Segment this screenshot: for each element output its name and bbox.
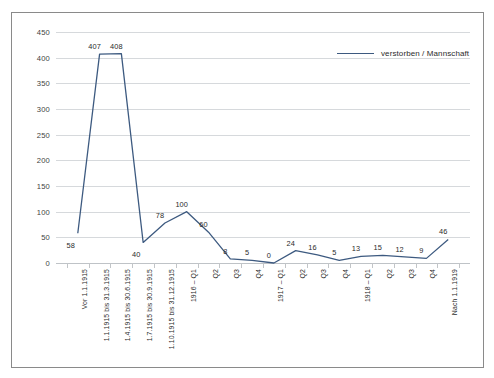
x-axis-tick — [459, 263, 460, 268]
y-tick-label: 200 — [37, 156, 50, 165]
x-axis-tick — [350, 263, 351, 268]
x-axis-tick — [372, 263, 373, 268]
y-tick-label: 300 — [37, 105, 50, 114]
y-tick-label: 0 — [46, 259, 50, 268]
y-tick-label: 100 — [37, 207, 50, 216]
x-axis-tick — [154, 263, 155, 268]
x-axis-category-label: Q3 — [408, 269, 415, 278]
x-axis-category-label: Q2 — [212, 269, 219, 278]
plot-area: 050100150200250300350400450 584074084078… — [56, 32, 470, 263]
x-axis-tick — [198, 263, 199, 268]
x-axis-category-label: Q2 — [299, 269, 306, 278]
y-tick-label: 450 — [37, 28, 50, 37]
y-tick-label: 250 — [37, 130, 50, 139]
x-axis-category-label: Q4 — [342, 269, 349, 278]
point-label: 8 — [223, 247, 227, 256]
point-label: 40 — [132, 250, 140, 259]
point-label: 407 — [88, 42, 101, 51]
legend-line-swatch — [337, 53, 374, 54]
legend-label: verstorben / Mannschaft — [381, 49, 469, 58]
point-label: 46 — [439, 227, 447, 236]
point-label: 12 — [395, 245, 403, 254]
point-label: 5 — [332, 248, 336, 257]
point-label: 100 — [175, 200, 188, 209]
x-axis-category-label: 1.4.1915 bis 30.6.1915 — [124, 269, 131, 341]
x-axis-category-label: 1.1.1915 bis 31.3.1915 — [103, 269, 110, 341]
point-label: 16 — [308, 243, 316, 252]
x-axis-category-label: Vor 1.1.1915 — [81, 269, 88, 309]
x-axis-category-label: Nach 1.1.1919 — [451, 269, 458, 315]
point-label: 5 — [245, 248, 249, 257]
point-label: 58 — [67, 241, 75, 250]
y-tick-label: 150 — [37, 182, 50, 191]
x-axis-tick — [416, 263, 417, 268]
y-tick-label: 50 — [41, 233, 50, 242]
point-label: 13 — [352, 244, 360, 253]
x-axis-tick — [285, 263, 286, 268]
x-axis-tick — [241, 263, 242, 268]
x-axis-category-label: Q4 — [429, 269, 436, 278]
line-series — [56, 32, 470, 263]
point-label: 0 — [267, 251, 271, 260]
chart-frame: 050100150200250300350400450 584074084078… — [11, 12, 484, 368]
x-axis-tick — [328, 263, 329, 268]
x-axis-tick — [132, 263, 133, 268]
x-axis-ticks — [56, 263, 470, 268]
x-axis-category-label: Q3 — [320, 269, 327, 278]
point-label: 15 — [374, 243, 382, 252]
y-tick-label: 400 — [37, 53, 50, 62]
point-label: 9 — [419, 246, 423, 255]
x-axis-tick — [219, 263, 220, 268]
point-label: 60 — [199, 220, 207, 229]
x-axis-tick — [110, 263, 111, 268]
x-axis-category-label: 1917 – Q1 — [277, 269, 284, 302]
point-label: 408 — [110, 42, 123, 51]
chart-legend: verstorben / Mannschaft — [337, 49, 469, 58]
x-axis-tick — [437, 263, 438, 268]
x-axis-tick — [394, 263, 395, 268]
x-axis-category-label: 1916 – Q1 — [190, 269, 197, 302]
x-axis-tick — [263, 263, 264, 268]
x-axis-category-label: Q3 — [233, 269, 240, 278]
x-axis-category-label: Q2 — [386, 269, 393, 278]
x-axis-category-label: Q4 — [255, 269, 262, 278]
x-axis-labels: Vor 1.1.19151.1.1915 bis 31.3.19151.4.19… — [56, 269, 470, 369]
x-axis-tick — [307, 263, 308, 268]
x-axis-category-label: 1.10.1915 bis 31.12.1915 — [168, 269, 175, 349]
point-label: 78 — [156, 211, 164, 220]
x-axis-tick — [67, 263, 68, 268]
series-line — [78, 54, 448, 263]
y-tick-label: 350 — [37, 79, 50, 88]
x-axis-category-label: 1918 – Q1 — [364, 269, 371, 302]
x-axis-tick — [89, 263, 90, 268]
x-axis-tick — [176, 263, 177, 268]
x-axis-category-label: 1.7.1915 bis 30.9.1915 — [146, 269, 153, 341]
point-label: 24 — [286, 239, 294, 248]
